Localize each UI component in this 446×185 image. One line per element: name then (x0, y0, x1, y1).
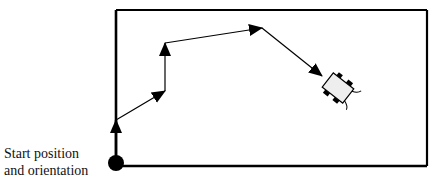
start-position-marker (108, 155, 124, 171)
start-position-label: Start position and orientation (4, 145, 88, 179)
path-segment-4 (165, 28, 262, 43)
robot-icon (320, 70, 362, 111)
start-label-line2: and orientation (4, 162, 88, 179)
start-label-line1: Start position (4, 145, 88, 162)
robot-path (116, 28, 322, 163)
path-segment-5 (262, 28, 322, 76)
workspace-boundary (116, 10, 427, 166)
path-segment-2 (116, 91, 165, 120)
